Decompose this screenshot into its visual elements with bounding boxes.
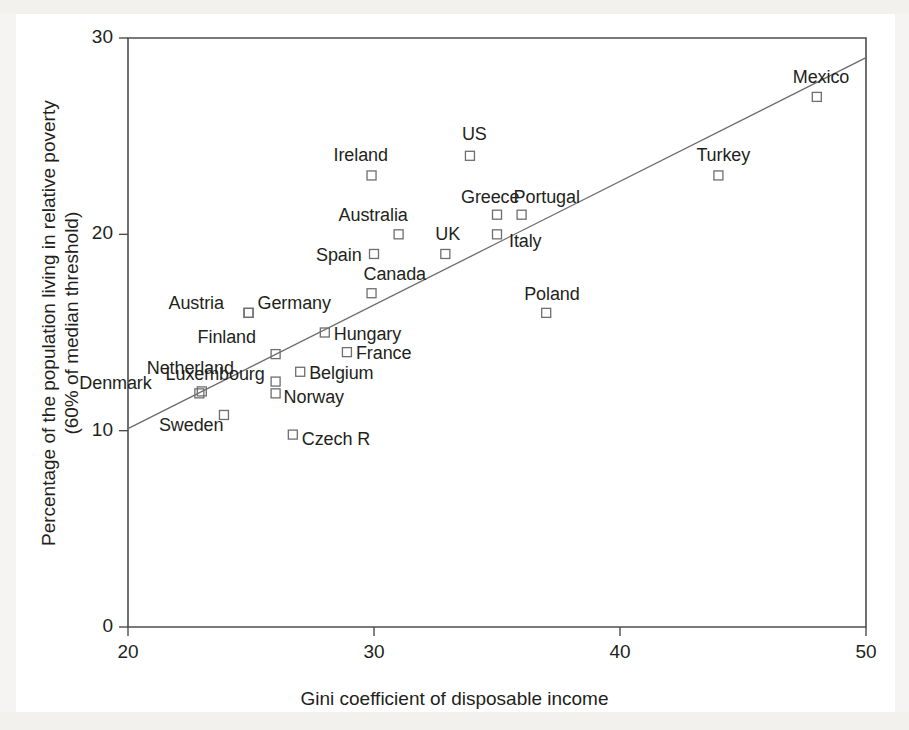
- data-point-label-canada: Canada: [364, 264, 426, 285]
- x-tick-label-40: 40: [590, 641, 650, 663]
- data-point-marker-germany: [244, 308, 253, 317]
- data-point-marker-us: [465, 151, 474, 160]
- data-point-marker-italy: [493, 230, 502, 239]
- data-point-marker-uk: [441, 249, 450, 258]
- data-point-label-sweden: Sweden: [159, 415, 223, 436]
- data-point-label-us: US: [462, 124, 487, 145]
- data-point-label-czech-r: Czech R: [302, 429, 370, 450]
- data-point-label-germany: Germany: [258, 293, 331, 314]
- data-point-label-denmark: Denmark: [79, 373, 151, 394]
- x-tick-label-20: 20: [98, 641, 158, 663]
- data-point-label-poland: Poland: [524, 284, 579, 305]
- y-axis-label-line2: (60% of median threshold): [60, 43, 83, 603]
- x-tick-label-30: 30: [344, 641, 404, 663]
- scatter-plot-figure: 010203020304050 DenmarkSwedenNetherlandA…: [0, 0, 909, 730]
- data-point-label-australia: Australia: [339, 205, 408, 226]
- data-point-label-france: France: [356, 343, 411, 364]
- data-point-marker-belgium: [296, 367, 305, 376]
- data-point-marker-france: [342, 348, 351, 357]
- data-point-label-greece: Greece: [461, 187, 519, 208]
- data-point-marker-austria: [244, 308, 253, 317]
- data-point-marker-greece: [493, 210, 502, 219]
- plot-canvas: [0, 0, 909, 730]
- data-point-label-austria: Austria: [169, 293, 224, 314]
- data-point-marker-poland: [542, 308, 551, 317]
- data-point-label-norway: Norway: [284, 387, 344, 408]
- data-point-marker-norway: [271, 389, 280, 398]
- y-tick-label-0: 0: [67, 615, 113, 637]
- data-point-marker-mexico: [812, 92, 821, 101]
- data-point-marker-ireland: [367, 171, 376, 180]
- x-axis-label: Gini coefficient of disposable income: [0, 688, 909, 710]
- data-point-label-hungary: Hungary: [334, 324, 401, 345]
- data-point-label-luxembourg: Luxembourg: [166, 364, 265, 385]
- data-point-label-spain: Spain: [316, 245, 362, 266]
- data-point-label-mexico: Mexico: [793, 67, 849, 88]
- data-point-label-ireland: Ireland: [334, 145, 388, 166]
- data-point-marker-canada: [367, 289, 376, 298]
- y-axis-label-line1: Percentage of the population living in r…: [37, 43, 60, 603]
- data-point-marker-luxembourg: [271, 377, 280, 386]
- data-point-label-turkey: Turkey: [696, 145, 750, 166]
- data-point-label-portugal: Portugal: [514, 187, 580, 208]
- data-point-marker-australia: [394, 230, 403, 239]
- y-axis-label: Percentage of the population living in r…: [37, 43, 83, 603]
- x-tick-label-50: 50: [836, 641, 896, 663]
- data-point-marker-portugal: [517, 210, 526, 219]
- data-point-marker-czech-r: [288, 430, 297, 439]
- data-point-marker-turkey: [714, 171, 723, 180]
- data-point-label-finland: Finland: [198, 327, 256, 348]
- data-point-label-belgium: Belgium: [309, 363, 373, 384]
- data-point-marker-spain: [370, 249, 379, 258]
- data-point-label-italy: Italy: [509, 231, 542, 252]
- data-point-label-uk: UK: [435, 224, 460, 245]
